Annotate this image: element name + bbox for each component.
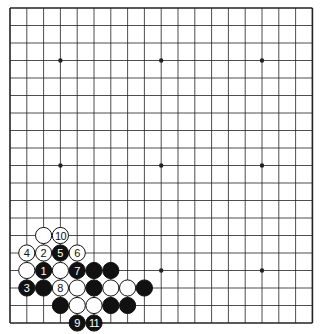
move-number: 3: [24, 282, 30, 294]
star-point: [58, 58, 62, 62]
white-stone: [86, 297, 102, 313]
white-stone: [120, 280, 136, 296]
star-point: [159, 58, 163, 62]
stone-circle: [103, 280, 119, 296]
white-stone: 6: [69, 245, 85, 261]
black-stone: [52, 297, 68, 313]
white-stone: 8: [52, 280, 68, 296]
stone-circle: [19, 262, 35, 278]
stone-circle: [120, 297, 136, 313]
star-point: [159, 163, 163, 167]
white-stone: 2: [36, 245, 52, 261]
black-stone: [86, 262, 102, 278]
move-number: 11: [89, 317, 100, 329]
white-stone: [103, 280, 119, 296]
stone-circle: [36, 227, 52, 243]
black-stone: 7: [69, 262, 85, 278]
star-point: [260, 58, 264, 62]
move-number: 5: [57, 247, 63, 259]
stone-circle: [86, 262, 102, 278]
black-stone: [103, 297, 119, 313]
black-stone: 11: [86, 315, 102, 331]
move-number: 2: [41, 247, 47, 259]
stone-circle: [69, 280, 85, 296]
move-number: 4: [24, 247, 30, 259]
move-number: 10: [55, 230, 66, 242]
stone-circle: [86, 280, 102, 296]
star-point: [58, 163, 62, 167]
white-stone: [52, 262, 68, 278]
move-number: 9: [74, 317, 80, 329]
white-stone: 4: [19, 245, 35, 261]
black-stone: [136, 280, 152, 296]
stone-circle: [52, 262, 68, 278]
move-number: 6: [74, 247, 80, 259]
star-point: [260, 268, 264, 272]
white-stone: [69, 297, 85, 313]
stone-circle: [69, 297, 85, 313]
go-board-grid: 1042561738911: [0, 0, 321, 334]
stone-circle: [36, 280, 52, 296]
stone-circle: [103, 297, 119, 313]
black-stone: 1: [36, 262, 52, 278]
stone-circle: [120, 280, 136, 296]
black-stone: [120, 297, 136, 313]
black-stone: 5: [52, 245, 68, 261]
black-stone: [103, 262, 119, 278]
stone-circle: [103, 262, 119, 278]
black-stone: 9: [69, 315, 85, 331]
go-board: 1042561738911: [0, 0, 321, 334]
star-point: [159, 268, 163, 272]
stones: 1042561738911: [19, 227, 153, 331]
white-stone: [69, 280, 85, 296]
black-stone: [36, 280, 52, 296]
black-stone: 3: [19, 280, 35, 296]
stone-circle: [136, 280, 152, 296]
white-stone: 10: [52, 227, 68, 243]
white-stone: [36, 227, 52, 243]
star-point: [260, 163, 264, 167]
move-number: 7: [74, 265, 80, 277]
white-stone: [19, 262, 35, 278]
black-stone: [86, 280, 102, 296]
stone-circle: [86, 297, 102, 313]
move-number: 1: [41, 265, 47, 277]
stone-circle: [52, 297, 68, 313]
move-number: 8: [57, 282, 63, 294]
